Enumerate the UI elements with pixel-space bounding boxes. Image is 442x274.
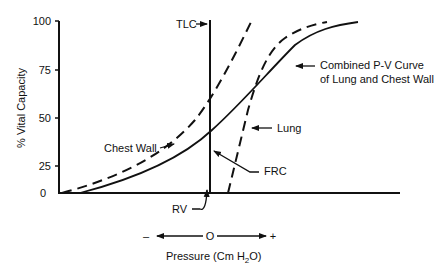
svg-text:50: 50 <box>39 112 51 124</box>
plus-sign: + <box>270 230 276 242</box>
tlc-label: TLC <box>176 18 197 30</box>
y-axis-label: % Vital Capacity <box>15 68 27 148</box>
y-tick-labels: 100 75 50 25 0 <box>33 15 51 199</box>
zero-marker: O <box>206 230 215 242</box>
frc-label: FRC <box>264 165 287 177</box>
chest-wall-label: Chest Wall <box>104 142 157 154</box>
minus-sign: – <box>143 230 150 242</box>
pv-curve-diagram: 100 75 50 25 0 % Vital Capacity TLC Ches… <box>0 0 442 274</box>
combined-label-line2: of Lung and Chest Wall <box>320 73 434 85</box>
combined-curve <box>80 22 358 193</box>
svg-text:0: 0 <box>40 187 46 199</box>
svg-text:75: 75 <box>39 64 51 76</box>
rv-label: RV <box>172 203 188 215</box>
svg-text:25: 25 <box>39 160 51 172</box>
svg-text:100: 100 <box>33 15 51 27</box>
x-axis-label: Pressure (Cm H2O) <box>166 250 262 265</box>
chest-wall-curve <box>62 20 252 193</box>
chest-wall-arrow <box>160 144 174 148</box>
combined-label-line1: Combined P-V Curve <box>320 59 424 71</box>
lung-label: Lung <box>277 122 301 134</box>
